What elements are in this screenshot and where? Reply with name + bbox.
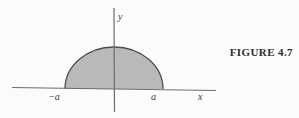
y-axis-line [114, 8, 115, 112]
figure-caption: FIGURE 4.7 [230, 46, 293, 58]
x-tick-label-a: a [151, 92, 156, 102]
x-tick-label-negative-a: −a [49, 92, 60, 102]
x-tick-left-variable: a [55, 91, 60, 102]
x-axis-label: x [198, 92, 202, 102]
semicircle-figure [0, 0, 299, 118]
figure-container: y x −a a FIGURE 4.7 [0, 0, 299, 118]
y-axis-label: y [118, 12, 122, 22]
